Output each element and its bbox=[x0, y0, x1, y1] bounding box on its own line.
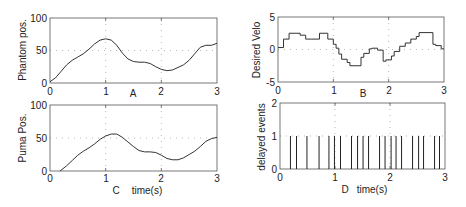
ytick-c-50: 50 bbox=[36, 133, 48, 144]
ytick-d-2: 2 bbox=[271, 98, 277, 109]
ytick-a-0: 0 bbox=[41, 78, 47, 89]
panel-a: 0 1 2 3 0 50 100 A Phantom pos. bbox=[17, 13, 220, 99]
panel-d: 0 1 2 3 0 1 2 D time(s) delayed events bbox=[256, 98, 448, 195]
xtick-b-1: 1 bbox=[331, 85, 337, 96]
ytick-b-neg5: -5 bbox=[266, 77, 275, 88]
ytick-a-100: 100 bbox=[30, 13, 47, 24]
panel-b: 0 1 2 3 -5 0 5 B Desired Velo bbox=[251, 12, 447, 99]
panel-label-d: D bbox=[341, 184, 348, 195]
delayed-events-bars bbox=[290, 136, 439, 169]
xtick-c-0: 0 bbox=[47, 173, 53, 184]
xtick-c-1: 1 bbox=[103, 173, 109, 184]
ytick-c-100: 100 bbox=[30, 100, 47, 111]
ylabel-b: Desired Velo bbox=[251, 21, 262, 78]
xtick-b-2: 2 bbox=[386, 85, 392, 96]
xtick-a-1: 1 bbox=[103, 86, 109, 97]
axes-box-c bbox=[50, 105, 217, 171]
ytick-b-5: 5 bbox=[269, 12, 275, 23]
puma-position-curve bbox=[60, 134, 217, 171]
xtick-d-1: 1 bbox=[332, 172, 338, 183]
ylabel-d: delayed events bbox=[256, 103, 267, 170]
xtick-d-2: 2 bbox=[387, 172, 393, 183]
panel-label-a: A bbox=[130, 88, 137, 99]
panel-label-b: B bbox=[360, 88, 367, 99]
xtick-c-2: 2 bbox=[158, 173, 164, 184]
xtick-a-3: 3 bbox=[214, 86, 220, 97]
ylabel-c: Puma Pos. bbox=[17, 114, 28, 163]
ylabel-a: Phantom pos. bbox=[17, 19, 28, 81]
xtick-d-0: 0 bbox=[277, 172, 283, 183]
grid-a bbox=[50, 18, 217, 83]
xtick-a-2: 2 bbox=[158, 86, 164, 97]
xlabel-c: time(s) bbox=[132, 185, 163, 196]
ytick-c-0: 0 bbox=[41, 166, 47, 177]
panel-label-c: C bbox=[112, 185, 119, 196]
ytick-a-50: 50 bbox=[36, 45, 48, 56]
ytick-d-1: 1 bbox=[271, 131, 277, 142]
ytick-d-0: 0 bbox=[271, 164, 277, 175]
xtick-b-0: 0 bbox=[275, 85, 281, 96]
figure: 0 1 2 3 0 50 100 A Phantom pos. 0 1 2 3 … bbox=[0, 0, 466, 207]
xtick-b-3: 3 bbox=[441, 85, 447, 96]
xlabel-d: time(s) bbox=[357, 184, 388, 195]
xtick-d-3: 3 bbox=[442, 172, 448, 183]
grid-c bbox=[50, 105, 217, 171]
panel-c: 0 1 2 3 0 50 100 C time(s) Puma Pos. bbox=[17, 100, 220, 196]
xtick-a-0: 0 bbox=[47, 86, 53, 97]
ytick-b-0: 0 bbox=[269, 44, 275, 55]
xtick-c-3: 3 bbox=[214, 173, 220, 184]
grid-b bbox=[278, 17, 444, 82]
grid-d bbox=[280, 103, 445, 169]
phantom-position-curve bbox=[50, 39, 217, 82]
axes-box-a bbox=[50, 18, 217, 83]
